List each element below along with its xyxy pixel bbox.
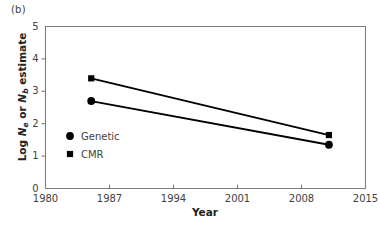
legend-label-cmr: CMR <box>81 149 104 160</box>
x-tick-label: 1987 <box>97 193 122 204</box>
x-tick-label: 1994 <box>161 193 186 204</box>
y-tick-label: 1 <box>32 150 38 161</box>
y-tick-label: 5 <box>32 21 38 32</box>
x-tick-label: 2015 <box>353 193 378 204</box>
data-point-genetic <box>87 97 95 105</box>
plot-frame <box>46 27 366 189</box>
figure-panel-b: (b) Log Ne or Nb estimate Year 012345 19… <box>0 0 380 230</box>
data-point-genetic <box>325 141 333 149</box>
legend-marker-genetic <box>66 132 74 140</box>
y-axis-ticks: 012345 <box>32 21 45 194</box>
data-point-cmr <box>326 132 332 138</box>
y-tick-label: 3 <box>32 85 38 96</box>
chart-legend: GeneticCMR <box>66 131 119 160</box>
x-tick-label: 2001 <box>225 193 250 204</box>
legend-marker-cmr <box>67 151 73 157</box>
data-point-cmr <box>88 75 94 81</box>
data-series-layer <box>87 75 333 148</box>
x-tick-label: 2008 <box>289 193 314 204</box>
legend-label-genetic: Genetic <box>81 131 120 142</box>
y-tick-label: 2 <box>32 118 38 129</box>
plot-area: 012345 198019871994200120082015 GeneticC… <box>0 0 380 230</box>
plot-frame-box <box>46 27 366 189</box>
y-tick-label: 4 <box>32 53 38 64</box>
x-axis-ticks: 198019871994200120082015 <box>33 185 378 204</box>
x-tick-label: 1980 <box>33 193 58 204</box>
